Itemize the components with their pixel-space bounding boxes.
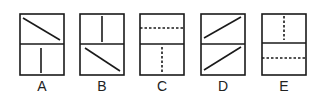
option-b-figure[interactable]	[80, 14, 124, 75]
option-d-bottom-diagonal-line	[204, 47, 241, 70]
option-d-label: D	[201, 78, 245, 94]
option-a-label: A	[20, 78, 64, 94]
option-a-figure[interactable]	[20, 14, 64, 75]
option-b-bottom-diagonal-line	[85, 48, 120, 71]
option-d-top-diagonal-line	[204, 17, 241, 38]
option-c-label: C	[140, 78, 184, 94]
option-c-figure[interactable]	[140, 14, 184, 75]
option-b-label: B	[80, 78, 124, 94]
option-d-figure[interactable]	[201, 14, 245, 75]
option-e-figure[interactable]	[262, 14, 306, 75]
option-e-label: E	[262, 78, 306, 94]
option-a-top-diagonal-line	[23, 18, 60, 40]
option-e-frame	[262, 14, 306, 75]
